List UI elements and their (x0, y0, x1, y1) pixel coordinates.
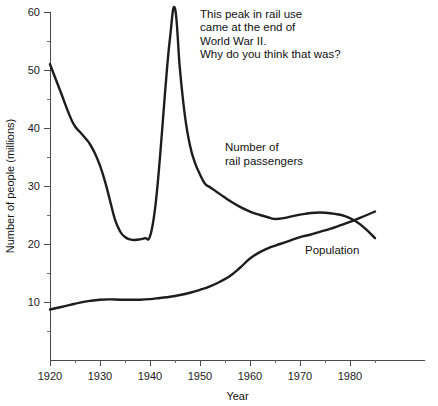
y-tick-label: 40 (28, 122, 40, 134)
series-label-population: Population (305, 244, 359, 256)
x-tick-label: 1960 (238, 370, 262, 382)
annotation-line: Why do you think that was? (200, 48, 341, 60)
y-axis-title: Number of people (millions) (4, 119, 16, 254)
y-tick-label: 30 (28, 180, 40, 192)
x-tick-label: 1940 (138, 370, 162, 382)
x-tick-label: 1950 (188, 370, 212, 382)
annotation-group: This peak in rail usecame at the end ofW… (200, 8, 341, 61)
chart-container: 102030405060 192019301940195019601970198… (0, 0, 438, 406)
series-label-rail-passengers: Number of (225, 141, 279, 153)
x-axis-title: Year (226, 390, 249, 402)
x-tick-label: 1980 (338, 370, 362, 382)
y-tick-label: 10 (28, 296, 40, 308)
annotation-line: World War II. (200, 35, 266, 47)
annotation-line: This peak in rail use (200, 8, 302, 20)
y-tick-label: 50 (28, 64, 40, 76)
x-tick-label: 1930 (88, 370, 112, 382)
annotation-line: came at the end of (200, 21, 296, 33)
line-chart: 102030405060 192019301940195019601970198… (0, 0, 438, 406)
y-tick-label: 20 (28, 238, 40, 250)
x-tick-label: 1920 (38, 370, 62, 382)
x-axis-ticks: 1920193019401950196019701980 (38, 360, 375, 382)
series-line-population (50, 212, 375, 310)
y-axis-ticks: 102030405060 (28, 6, 50, 331)
y-tick-label: 60 (28, 6, 40, 18)
series-label-rail-passengers: rail passengers (225, 155, 303, 167)
x-tick-label: 1970 (288, 370, 312, 382)
